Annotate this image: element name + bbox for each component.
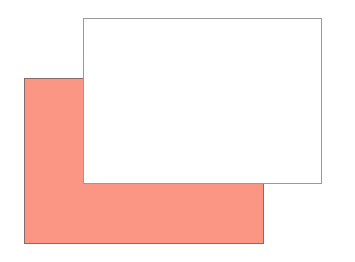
white-rectangle xyxy=(83,18,322,184)
